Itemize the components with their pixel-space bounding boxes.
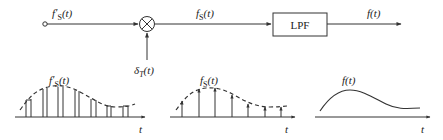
sampling-diagram: f'S(t) δT(t) fS(t) LPF f(t) t f'S(t) <box>0 0 443 140</box>
axis-label-t: t <box>139 123 143 135</box>
plot-reconstructed: t f(t) <box>315 74 430 135</box>
impulse-train-label: δT(t) <box>134 64 154 79</box>
lpf-label: LPF <box>291 19 310 31</box>
block-diagram: f'S(t) δT(t) fS(t) LPF f(t) <box>43 6 401 79</box>
plot-impulse-sampled: t fS(t) <box>170 74 295 135</box>
axis-label-t: t <box>285 123 289 135</box>
plot2-label: fS(t) <box>200 74 218 89</box>
axis-label-t: t <box>421 123 425 135</box>
multiplier-icon <box>140 17 155 32</box>
sampled-label: fS(t) <box>196 7 214 22</box>
plot1-label: f'S(t) <box>49 73 70 89</box>
input-node <box>43 22 47 26</box>
plot3-label: f(t) <box>342 74 356 87</box>
signal-curve <box>320 90 420 111</box>
output-label: f(t) <box>367 7 381 20</box>
plot-sample-hold: t f'S(t) <box>15 73 145 135</box>
input-label: f'S(t) <box>52 6 73 22</box>
lpf-block: LPF <box>273 13 327 36</box>
